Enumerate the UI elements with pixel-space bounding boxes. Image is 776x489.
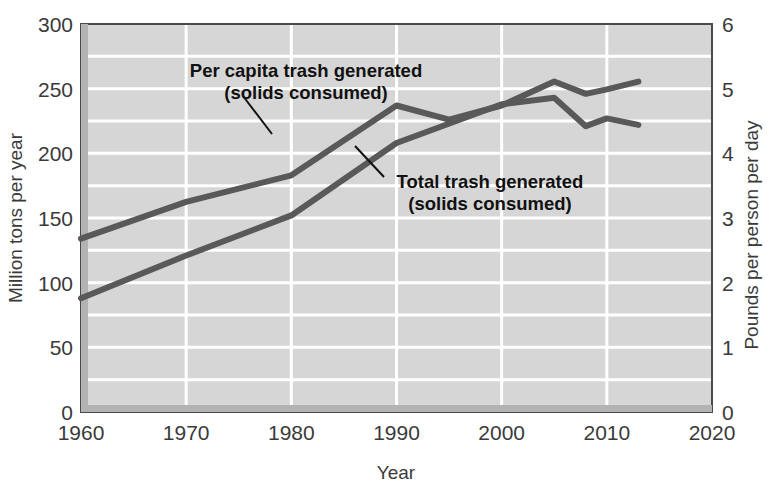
- x-axis-title: Year: [377, 462, 416, 483]
- annotation-per-capita: Per capita trash generated (solids consu…: [190, 60, 422, 103]
- plot-left-inner-shadow: [81, 24, 88, 412]
- x-tick-label: 1980: [268, 421, 315, 444]
- y-tick-label: 300: [38, 13, 73, 36]
- x-tick-label: 2020: [689, 421, 736, 444]
- secondary-y-axis-title: Pounds per person per day: [741, 120, 762, 350]
- y-axis-title: Million tons per year: [5, 132, 26, 303]
- y-tick-label: 0: [61, 401, 73, 424]
- secondary-y-tick-label: 1: [722, 336, 734, 359]
- per-capita-annotation-line1: Per capita trash generated: [190, 60, 422, 81]
- y-axis-tick-labels: 050100150200250300: [38, 13, 73, 424]
- plot-bottom-inner-shadow: [81, 405, 712, 412]
- secondary-y-axis-tick-labels: 0123456: [722, 13, 734, 424]
- total-trash-annotation-line1: Total trash generated: [397, 171, 584, 192]
- x-axis-tick-labels: 1960197019801990200020102020: [58, 421, 736, 444]
- y-tick-label: 200: [38, 142, 73, 165]
- x-tick-label: 2000: [478, 421, 525, 444]
- total-trash-annotation-line2: (solids consumed): [408, 193, 571, 214]
- x-tick-label: 1960: [58, 421, 105, 444]
- secondary-y-tick-label: 6: [722, 13, 734, 36]
- chart-figure: Per capita trash generated (solids consu…: [0, 0, 776, 489]
- secondary-y-tick-label: 0: [722, 401, 734, 424]
- secondary-y-tick-label: 4: [722, 142, 734, 165]
- annotation-total-trash: Total trash generated (solids consumed): [397, 171, 584, 214]
- per-capita-annotation-line2: (solids consumed): [224, 82, 387, 103]
- y-tick-label: 100: [38, 272, 73, 295]
- y-tick-label: 250: [38, 78, 73, 101]
- y-tick-label: 50: [50, 336, 73, 359]
- x-tick-label: 1990: [373, 421, 420, 444]
- y-tick-label: 150: [38, 207, 73, 230]
- secondary-y-tick-label: 5: [722, 78, 734, 101]
- x-tick-label: 2010: [583, 421, 630, 444]
- line-chart: Per capita trash generated (solids consu…: [0, 0, 776, 489]
- x-tick-label: 1970: [163, 421, 210, 444]
- secondary-y-tick-label: 3: [722, 207, 734, 230]
- secondary-y-tick-label: 2: [722, 272, 734, 295]
